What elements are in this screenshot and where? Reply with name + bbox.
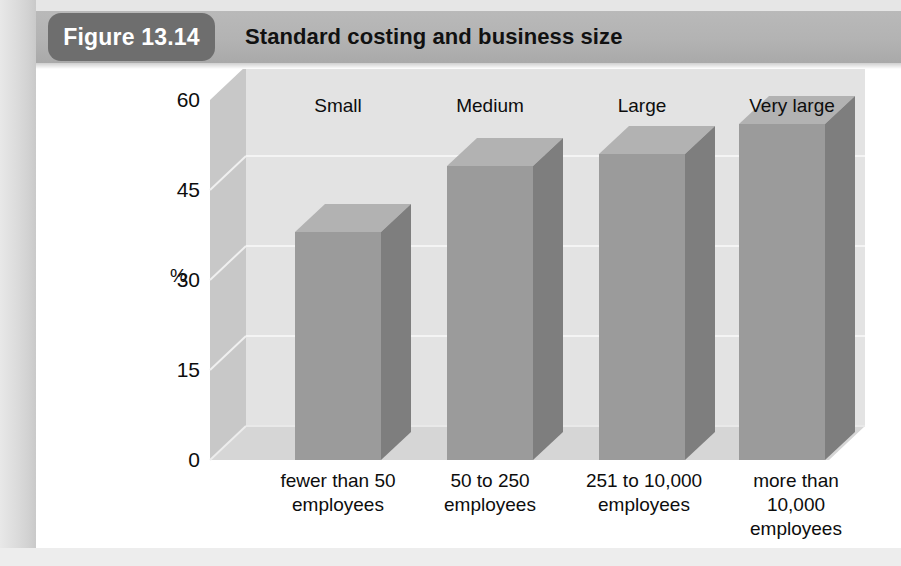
xaxis-label-large-line2: employees [564, 493, 724, 517]
xaxis-label-medium-line1: 50 to 250 [420, 469, 560, 493]
category-top-label-small: Small [278, 95, 398, 117]
category-top-label-very-large: Very large [722, 95, 862, 117]
bar-large [599, 126, 715, 460]
xaxis-label-large-line1: 251 to 10,000 [564, 469, 724, 493]
xaxis-label-very-large-line1: more than [726, 469, 866, 493]
category-top-label-large: Large [582, 95, 702, 117]
xaxis-label-small-line2: employees [268, 493, 408, 517]
xaxis-label-small-line1: fewer than 50 [268, 469, 408, 493]
xaxis-label-medium-line2: employees [420, 493, 560, 517]
bar-very-large [739, 96, 855, 460]
ytick-60: 60 [140, 88, 200, 112]
figure-body: 60 45 30 15 0 % Small Medium Large Very … [36, 69, 901, 548]
xaxis-label-very-large-line3: employees [726, 517, 866, 541]
ytick-0: 0 [140, 448, 200, 472]
plot-left-wall [210, 69, 246, 460]
bar-small [295, 204, 411, 460]
figure-page: Figure 13.14 Standard costing and busine… [0, 0, 901, 566]
ytick-45: 45 [140, 178, 200, 202]
ytick-15: 15 [140, 358, 200, 382]
category-top-label-medium: Medium [430, 95, 550, 117]
figure-title: Standard costing and business size [245, 24, 623, 50]
xaxis-label-very-large-line2: 10,000 [726, 493, 866, 517]
bar-chart-3d: 60 45 30 15 0 % Small Medium Large Very … [36, 69, 901, 548]
page-margin-top [0, 0, 901, 11]
page-margin-left [0, 0, 36, 566]
figure-number-badge: Figure 13.14 [48, 13, 215, 61]
xaxis-label-large: 251 to 10,000 employees [564, 469, 724, 517]
bar-medium [447, 138, 563, 460]
xaxis-label-small: fewer than 50 employees [268, 469, 408, 517]
y-axis-unit-label: % [170, 265, 187, 287]
page-margin-bottom [0, 548, 901, 566]
xaxis-label-very-large: more than 10,000 employees [726, 469, 866, 541]
figure-number-label: Figure 13.14 [63, 24, 200, 51]
xaxis-label-medium: 50 to 250 employees [420, 469, 560, 517]
